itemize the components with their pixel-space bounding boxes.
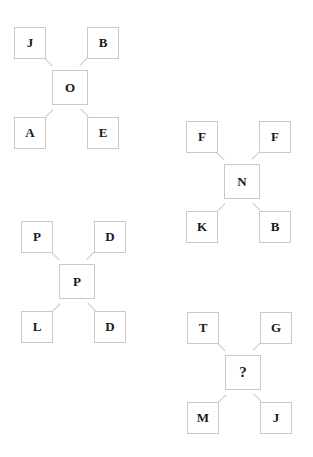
- connector-top-left: [216, 152, 224, 160]
- cell-top-right: D: [94, 221, 126, 253]
- cell-top-left: T: [187, 312, 219, 344]
- connector-bottom-left: [52, 303, 60, 311]
- cell-bottom-right: B: [259, 211, 291, 243]
- cell-top-right: B: [87, 27, 119, 59]
- cell-top-left: P: [21, 221, 53, 253]
- cell-bottom-left: L: [21, 311, 53, 343]
- connector-bottom-left: [45, 109, 53, 117]
- connector-bottom-left: [218, 394, 226, 402]
- cell-top-right: G: [260, 312, 292, 344]
- puzzle-group-2: F F N K B: [186, 121, 291, 245]
- cell-bottom-right: J: [260, 402, 292, 434]
- puzzle-page: { "diagram": { "type": "letter-cross-puz…: [0, 0, 313, 457]
- connector-top-left: [51, 252, 59, 260]
- connector-top-left: [217, 343, 225, 351]
- cell-bottom-left: A: [14, 117, 46, 149]
- puzzle-group-1: J B O A E: [14, 27, 119, 151]
- cell-top-right: F: [259, 121, 291, 153]
- connector-top-left: [44, 58, 52, 66]
- cell-bottom-left: K: [186, 211, 218, 243]
- connector-bottom-right: [80, 109, 88, 117]
- connector-bottom-right: [87, 303, 95, 311]
- cell-bottom-right: E: [87, 117, 119, 149]
- cell-top-left: J: [14, 27, 46, 59]
- cell-center: N: [224, 164, 260, 199]
- cell-center: P: [59, 264, 95, 299]
- cell-bottom-left: M: [187, 402, 219, 434]
- cell-bottom-right: D: [94, 311, 126, 343]
- cell-center: O: [52, 70, 88, 105]
- connector-bottom-left: [217, 203, 225, 211]
- puzzle-group-3: P D P L D: [21, 221, 126, 345]
- connector-bottom-right: [253, 394, 261, 402]
- connector-bottom-right: [252, 203, 260, 211]
- cell-center-unknown: ?: [225, 355, 261, 390]
- puzzle-group-4: T G ? M J: [187, 312, 292, 436]
- cell-top-left: F: [186, 121, 218, 153]
